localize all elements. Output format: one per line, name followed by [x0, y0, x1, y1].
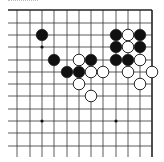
black-stone	[73, 66, 85, 78]
star-point	[40, 45, 43, 48]
black-stone	[110, 54, 122, 66]
white-stone	[73, 78, 85, 90]
white-stone	[122, 29, 134, 41]
black-stone	[36, 29, 48, 41]
black-stone	[110, 29, 122, 41]
go-board[interactable]	[0, 0, 164, 162]
white-stone	[97, 66, 109, 78]
black-stone	[85, 54, 97, 66]
star-point	[114, 119, 117, 122]
white-stone	[146, 66, 158, 78]
white-stone	[134, 54, 146, 66]
star-point	[40, 119, 43, 122]
white-stone	[122, 66, 134, 78]
white-stone	[85, 90, 97, 102]
black-stone	[134, 29, 146, 41]
black-stone	[122, 54, 134, 66]
white-stone	[85, 66, 97, 78]
black-stone	[110, 41, 122, 53]
black-stone	[61, 66, 73, 78]
white-stone	[122, 41, 134, 53]
white-stone	[134, 78, 146, 90]
white-stone	[73, 54, 85, 66]
black-stone	[134, 41, 146, 53]
black-stone	[48, 54, 60, 66]
